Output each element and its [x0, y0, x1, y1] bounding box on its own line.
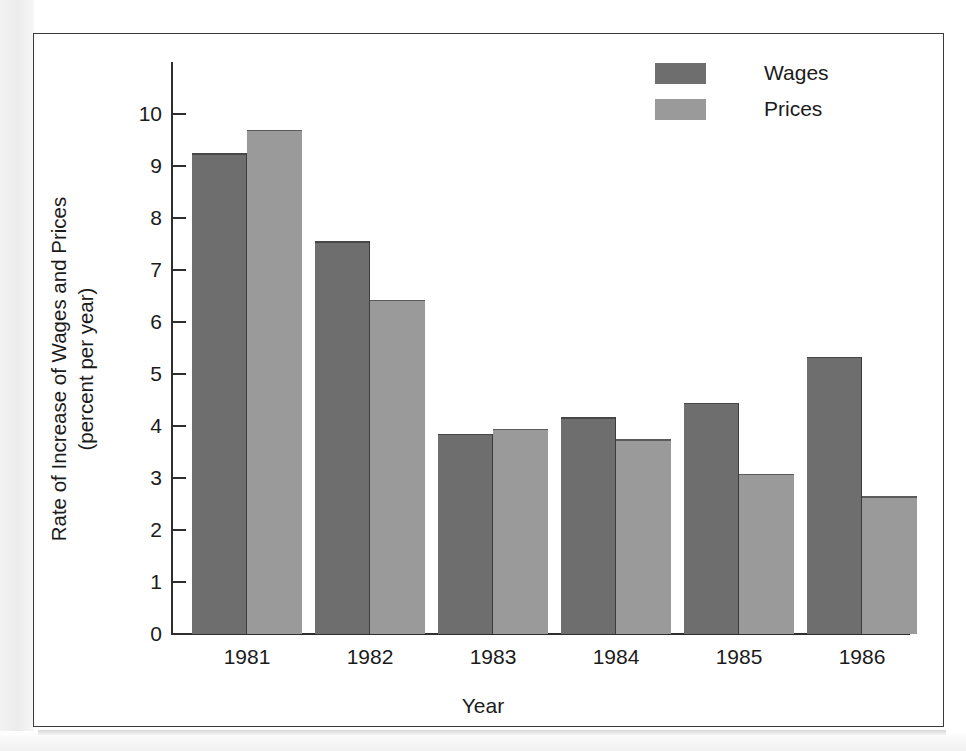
bar-top-edge — [192, 153, 246, 155]
bar-prices-1984 — [616, 439, 671, 634]
y-axis-tick — [173, 373, 186, 375]
y-axis-tick — [173, 321, 186, 323]
x-axis-label-1982: 1982 — [310, 645, 430, 669]
y-axis-tick-label-text: 2 — [120, 519, 162, 540]
x-axis-label-1984: 1984 — [556, 645, 676, 669]
bar-prices-1982 — [370, 300, 425, 634]
chart-legend: WagesPrices — [655, 55, 829, 127]
y-axis-tick — [173, 581, 186, 583]
legend-label-prices: Prices — [764, 97, 822, 121]
y-axis-tick-label-text: 0 — [120, 623, 162, 644]
y-axis-tick-label-text: 7 — [120, 259, 162, 280]
legend-item-prices: Prices — [655, 91, 829, 127]
legend-label-wages: Wages — [764, 61, 829, 85]
x-axis-label-1981: 1981 — [187, 645, 307, 669]
bar-chart-plot-area: 109876543210 198119821983198419851986 Ye… — [0, 0, 966, 751]
bar-top-edge — [315, 241, 369, 243]
bar-top-edge — [247, 130, 302, 132]
legend-swatch-prices — [655, 99, 706, 120]
y-axis-tick-label-text: 4 — [120, 415, 162, 436]
y-axis-tick-label-text: 6 — [120, 311, 162, 332]
x-axis-title: Year — [0, 694, 966, 718]
bar-top-edge — [807, 357, 861, 359]
y-axis-tick-label-text: 9 — [120, 155, 162, 176]
bar-top-edge — [438, 434, 492, 436]
y-axis-tick — [173, 425, 186, 427]
y-axis-tick — [173, 529, 186, 531]
bar-top-edge — [493, 429, 548, 431]
bar-wages-1985 — [684, 403, 739, 634]
y-axis-tick — [173, 165, 186, 167]
x-axis-label-1983: 1983 — [433, 645, 553, 669]
bar-prices-1986 — [862, 496, 917, 634]
y-axis-tick — [173, 217, 186, 219]
y-axis-tick-label-text: 3 — [120, 467, 162, 488]
bar-wages-1984 — [561, 417, 616, 634]
y-axis-tick-label-text: 5 — [120, 363, 162, 384]
bar-top-edge — [561, 417, 615, 419]
bar-top-edge — [370, 300, 425, 302]
x-axis-label-1985: 1985 — [679, 645, 799, 669]
legend-item-wages: Wages — [655, 55, 829, 91]
bar-prices-1985 — [739, 474, 794, 634]
y-axis-title-line2: (percent per year) — [72, 89, 99, 649]
bar-prices-1983 — [493, 429, 548, 634]
x-axis-label-1986: 1986 — [802, 645, 922, 669]
y-axis-title: Rate of Increase of Wages and Prices (pe… — [45, 89, 99, 649]
bar-wages-1983 — [438, 434, 493, 634]
bar-prices-1981 — [247, 130, 302, 634]
bar-top-edge — [684, 403, 738, 405]
y-axis-tick — [173, 113, 186, 115]
y-axis-tick — [173, 269, 186, 271]
y-axis-title-line1: Rate of Increase of Wages and Prices — [45, 89, 72, 649]
y-axis-tick — [173, 477, 186, 479]
y-axis-line — [171, 62, 173, 635]
y-axis-tick-label-text: 10 — [120, 103, 162, 124]
y-axis-tick-label-text: 1 — [120, 571, 162, 592]
bar-top-edge — [862, 496, 917, 498]
bar-wages-1986 — [807, 357, 862, 634]
bar-wages-1982 — [315, 241, 370, 634]
bar-wages-1981 — [192, 153, 247, 634]
bar-top-edge — [616, 439, 671, 441]
bar-top-edge — [739, 474, 794, 476]
y-axis-tick-label-text: 8 — [120, 207, 162, 228]
legend-swatch-wages — [655, 63, 706, 84]
